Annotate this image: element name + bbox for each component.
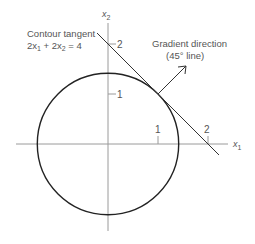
- contour-tangent-equation: 2x1 + 2x2 = 4: [27, 40, 82, 52]
- gradient-arrow-icon: [158, 66, 186, 94]
- y-tick-label-1: 1: [117, 89, 123, 100]
- diagram-canvas: x2 x1 2 1 1 2 Contour tangent 2x1 + 2x2 …: [0, 0, 255, 244]
- x-tick-label-1: 1: [155, 124, 161, 135]
- x-tick-label-2: 2: [204, 124, 210, 135]
- x1-axis-label: x1: [232, 139, 242, 151]
- gradient-direction-subtitle: (45° line): [166, 50, 204, 61]
- contour-tangent-title: Contour tangent: [27, 28, 95, 39]
- y-tick-label-2: 2: [117, 39, 123, 50]
- x2-axis-label: x2: [101, 9, 111, 21]
- gradient-direction-title: Gradient direction: [152, 38, 227, 49]
